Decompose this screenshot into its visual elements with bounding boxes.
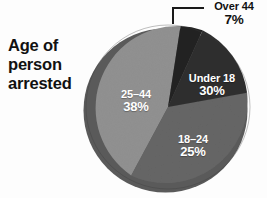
chart-title-line-1: Age of <box>8 36 92 55</box>
callout-leader-line-horizontal <box>172 7 204 9</box>
callout-leader-line-vertical <box>172 7 174 24</box>
chart-title: Age of person arrested <box>8 36 92 92</box>
slice-label-25-44-value: 38% <box>104 100 168 115</box>
pie-chart-figure: Age of person arrested <box>0 0 267 198</box>
chart-title-line-3: arrested <box>8 74 92 93</box>
slice-label-18-24-value: 25% <box>162 145 224 160</box>
slice-label-25-44: 25–44 38% <box>104 88 168 115</box>
chart-title-line-2: person <box>8 55 92 74</box>
slice-label-under-18: Under 18 30% <box>176 72 248 99</box>
slice-label-over-44: Over 44 7% <box>203 1 265 27</box>
slice-label-18-24: 18–24 25% <box>162 133 224 160</box>
slice-label-over-44-value: 7% <box>203 13 265 28</box>
slice-label-under-18-value: 30% <box>176 84 248 99</box>
